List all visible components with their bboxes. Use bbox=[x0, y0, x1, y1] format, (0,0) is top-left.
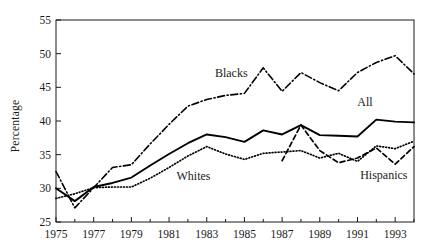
x-tick-label: 1975 bbox=[45, 228, 68, 240]
x-tick-label: 1993 bbox=[384, 228, 407, 240]
y-tick-label: 55 bbox=[40, 14, 52, 26]
series-annotation-blacks: Blacks bbox=[215, 66, 248, 80]
x-tick-label: 1987 bbox=[271, 228, 294, 240]
x-tick-label: 1989 bbox=[308, 228, 331, 240]
x-tick-label: 1977 bbox=[82, 228, 105, 240]
x-tick-label: 1983 bbox=[195, 228, 218, 240]
y-tick-label: 50 bbox=[40, 48, 52, 60]
axes-layer: 2530354045505519751977197919811983198519… bbox=[40, 14, 415, 240]
x-tick-label: 1991 bbox=[346, 228, 369, 240]
plot-area: 2530354045505519751977197919811983198519… bbox=[0, 0, 424, 251]
x-tick-label: 1979 bbox=[120, 228, 143, 240]
x-tick-label: 1985 bbox=[233, 228, 256, 240]
series-annotation-whites: Whites bbox=[177, 169, 211, 183]
y-tick-label: 45 bbox=[40, 81, 52, 93]
y-tick-label: 25 bbox=[40, 216, 52, 228]
annotation-layer: BlacksAllWhitesHispanics bbox=[177, 66, 408, 183]
series-line-all bbox=[56, 120, 414, 201]
x-tick-label: 1981 bbox=[158, 228, 181, 240]
y-tick-label: 40 bbox=[40, 115, 52, 127]
y-tick-label: 30 bbox=[40, 182, 52, 194]
y-tick-label: 35 bbox=[40, 149, 52, 161]
series-annotation-all: All bbox=[357, 95, 373, 109]
chart-figure: Percentage 25303540455055197519771979198… bbox=[0, 0, 424, 251]
plot-frame bbox=[56, 20, 414, 222]
line-chart-svg: 2530354045505519751977197919811983198519… bbox=[0, 0, 424, 251]
series-annotation-hispanics: Hispanics bbox=[360, 168, 408, 182]
